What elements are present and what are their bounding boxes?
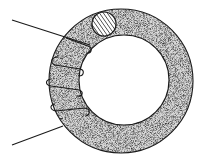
toroid-illustration: [0, 0, 204, 163]
cross-section-marker: [92, 12, 116, 36]
toroidal-coil-diagram: Toroidal coil: [0, 0, 204, 163]
